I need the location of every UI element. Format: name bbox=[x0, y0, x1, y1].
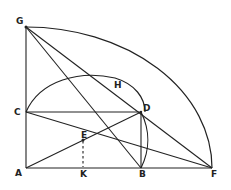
label-g: G bbox=[16, 16, 23, 26]
label-d: D bbox=[143, 103, 150, 113]
point-g bbox=[25, 26, 28, 29]
label-a: A bbox=[15, 168, 22, 178]
arc-chd bbox=[26, 75, 145, 112]
label-f: F bbox=[211, 169, 217, 179]
label-k: K bbox=[80, 169, 88, 179]
label-b: B bbox=[139, 169, 146, 179]
label-h: H bbox=[114, 80, 122, 90]
segment-gf bbox=[26, 27, 212, 168]
point-d bbox=[140, 111, 142, 113]
label-c: C bbox=[14, 107, 21, 117]
segment-cf bbox=[26, 112, 212, 168]
arc-db bbox=[141, 112, 148, 168]
label-e: E bbox=[81, 130, 87, 140]
geometry-diagram: G H C D E A K B F bbox=[0, 0, 231, 190]
